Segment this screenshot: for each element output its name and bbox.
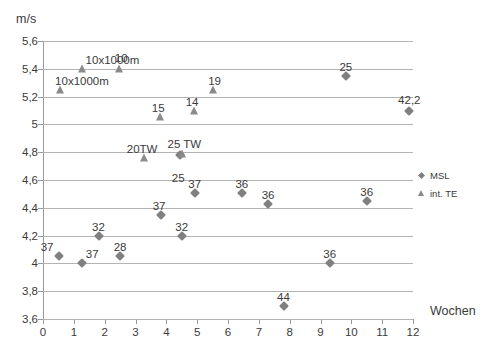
data-point-label: 25 bbox=[339, 61, 352, 73]
y-tick-label: 5,2 bbox=[22, 91, 38, 103]
data-point-label: 42,2 bbox=[398, 94, 420, 106]
data-point-label: 37 bbox=[188, 178, 201, 190]
data-point-label: 32 bbox=[175, 221, 188, 233]
data-point-label: 20TW bbox=[127, 143, 158, 155]
data-point-label: 10 bbox=[115, 52, 128, 64]
y-tick-label: 5,6 bbox=[22, 35, 38, 47]
x-tick-mark bbox=[351, 320, 352, 324]
x-tick-label: 3 bbox=[132, 326, 138, 338]
x-tick-label: 0 bbox=[40, 326, 46, 338]
plot-area: 373732283725323736364436253642,210x1000m… bbox=[43, 41, 413, 319]
data-point-label: 37 bbox=[153, 200, 166, 212]
data-point-label: 36 bbox=[235, 178, 248, 190]
data-point-label: 19 bbox=[208, 75, 221, 87]
data-point-triangle bbox=[115, 64, 123, 72]
data-point-triangle bbox=[178, 149, 186, 157]
gridline-y bbox=[43, 152, 413, 153]
data-point-diamond bbox=[404, 106, 414, 116]
data-point-label: 15 bbox=[152, 102, 165, 114]
gridline-y bbox=[43, 69, 413, 70]
y-tick-label: 3,8 bbox=[22, 285, 38, 297]
y-axis-ticks: 3,63,844,24,44,64,855,25,45,6 bbox=[0, 0, 38, 354]
y-tick-label: 4,8 bbox=[22, 146, 38, 158]
data-point-label: 25 bbox=[172, 172, 185, 184]
data-point-label: 10x1000m bbox=[86, 54, 140, 66]
data-point-label: 32 bbox=[92, 221, 105, 233]
legend-item[interactable]: int. TE bbox=[418, 184, 480, 202]
x-tick-label: 7 bbox=[256, 326, 262, 338]
x-tick-label: 9 bbox=[317, 326, 323, 338]
x-tick-mark bbox=[413, 320, 414, 324]
x-tick-label: 4 bbox=[163, 326, 169, 338]
x-tick-label: 11 bbox=[376, 326, 388, 338]
gridline-y bbox=[43, 41, 413, 42]
data-point-label: 36 bbox=[360, 186, 373, 198]
legend-label: int. TE bbox=[430, 188, 457, 199]
data-point-label: 36 bbox=[323, 248, 336, 260]
data-point-diamond bbox=[54, 251, 64, 261]
x-tick-label: 2 bbox=[101, 326, 107, 338]
x-tick-mark bbox=[259, 320, 260, 324]
data-point-label: 37 bbox=[86, 248, 99, 260]
data-point-label: 44 bbox=[277, 291, 290, 303]
x-tick-mark bbox=[105, 320, 106, 324]
gridline-y bbox=[43, 208, 413, 209]
x-tick-label: 10 bbox=[345, 326, 358, 338]
gridline-y bbox=[43, 97, 413, 98]
x-axis-title: Wochen bbox=[430, 304, 476, 318]
chart-legend: MSLint. TE bbox=[418, 166, 480, 202]
x-tick-label: 12 bbox=[407, 326, 420, 338]
x-tick-label: 1 bbox=[71, 326, 77, 338]
data-point-label: 14 bbox=[186, 96, 199, 108]
x-tick-mark bbox=[74, 320, 75, 324]
y-tick-label: 4,2 bbox=[22, 230, 38, 242]
data-point-label: 25 TW bbox=[168, 138, 202, 150]
gridline-y bbox=[43, 263, 413, 264]
x-tick-mark bbox=[136, 320, 137, 324]
y-tick-label: 4,6 bbox=[22, 174, 38, 186]
data-point-label: 37 bbox=[41, 241, 54, 253]
x-tick-label: 6 bbox=[225, 326, 231, 338]
y-tick-label: 4,4 bbox=[22, 202, 38, 214]
x-tick-mark bbox=[228, 320, 229, 324]
triangle-icon bbox=[418, 190, 424, 196]
gridline-y bbox=[43, 124, 413, 125]
legend-item[interactable]: MSL bbox=[418, 166, 480, 184]
gridline-y bbox=[43, 291, 413, 292]
data-point-label: 28 bbox=[114, 241, 127, 253]
x-tick-label: 8 bbox=[286, 326, 292, 338]
x-tick-mark bbox=[382, 320, 383, 324]
gridline-y bbox=[43, 180, 413, 181]
diamond-icon bbox=[418, 171, 425, 178]
scatter-chart: m/s Wochen 3,63,844,24,44,64,855,25,45,6… bbox=[0, 0, 484, 354]
x-tick-mark bbox=[321, 320, 322, 324]
data-point-label: 36 bbox=[262, 189, 275, 201]
x-tick-mark bbox=[43, 320, 44, 324]
x-tick-mark bbox=[290, 320, 291, 324]
legend-label: MSL bbox=[430, 170, 450, 181]
x-tick-mark bbox=[166, 320, 167, 324]
y-tick-label: 5,4 bbox=[22, 63, 38, 75]
data-point-label: 10x1000m bbox=[55, 75, 109, 87]
y-tick-label: 3,6 bbox=[22, 313, 38, 325]
x-tick-mark bbox=[197, 320, 198, 324]
x-tick-label: 5 bbox=[194, 326, 200, 338]
